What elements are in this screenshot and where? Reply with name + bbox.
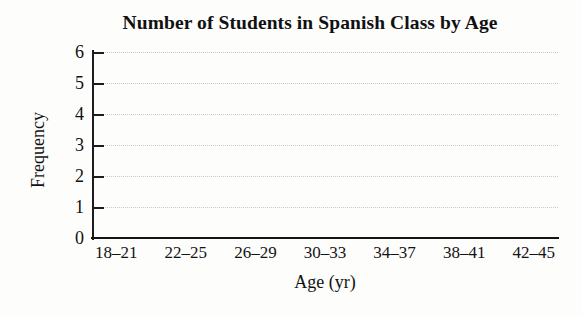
x-axis-line [91, 237, 559, 239]
y-axis-tick [92, 145, 104, 147]
y-axis-tick [92, 52, 104, 54]
x-axis-tick-label: 22–25 [165, 243, 208, 265]
bars-layer [92, 52, 558, 238]
y-axis-tick [92, 176, 104, 178]
y-axis-tick-label: 6 [58, 43, 84, 61]
y-axis-tick-label: 1 [58, 198, 84, 216]
x-axis-tick-label: 34–37 [373, 243, 416, 265]
x-axis-tick-label: 26–29 [234, 243, 277, 265]
y-axis-tick-label: 3 [58, 136, 84, 154]
y-axis-tick-label: 4 [58, 105, 84, 123]
y-axis-tick [92, 207, 104, 209]
chart-figure: Number of Students in Spanish Class by A… [0, 0, 582, 315]
x-axis-tick-label: 18–21 [95, 243, 138, 265]
y-axis-tick-label: 5 [58, 74, 84, 92]
y-axis-tick-label: 2 [58, 167, 84, 185]
x-axis-tick-labels: 18–2122–2526–2930–3334–3738–4142–45 [92, 243, 558, 265]
x-axis-tick-label: 38–41 [443, 243, 486, 265]
x-axis-tick-label: 42–45 [512, 243, 555, 265]
y-axis-tick [92, 114, 104, 116]
y-axis-tick-label: 0 [58, 229, 84, 247]
plot-area [92, 52, 558, 238]
x-axis-tick-label: 30–33 [304, 243, 347, 265]
chart-title: Number of Students in Spanish Class by A… [60, 12, 560, 34]
y-axis-title: Frequency [28, 50, 48, 250]
x-axis-title: Age (yr) [92, 272, 558, 293]
y-axis-tick [92, 83, 104, 85]
